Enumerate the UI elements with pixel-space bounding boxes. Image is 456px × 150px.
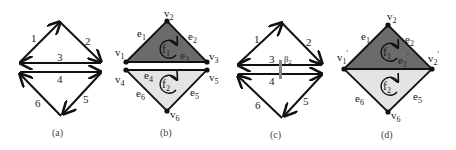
half-edge-6 (20, 74, 61, 116)
vertex-label-v4: v4 (115, 73, 125, 88)
vertex-label-v6: v6 (391, 109, 401, 124)
edge-label-3: 3 (269, 53, 275, 65)
edge-label-4: 4 (269, 75, 275, 87)
beta2-sewing-marker (279, 60, 282, 79)
vertex-label-v1-prime: v1' (337, 49, 349, 66)
caption-c: (c) (270, 129, 281, 141)
caption-d: (d) (381, 129, 393, 141)
vertex-v6 (385, 109, 390, 114)
half-edge-2 (60, 22, 101, 62)
vertex-v1-prime (341, 66, 346, 71)
vertex-v2 (385, 22, 390, 27)
edge-label-5: 5 (83, 93, 89, 105)
vertex-label-v3: v3 (209, 50, 219, 65)
edge-label-1: 1 (254, 33, 260, 45)
panel-a: 1 2 3 4 5 6 (a) (20, 22, 101, 139)
diagram-canvas: 1 2 3 4 5 6 (a) v1 v2 v3 v4 v5 v6 e1 e2 … (0, 0, 456, 150)
half-edge-1 (238, 23, 282, 64)
vertex-label-v1: v1 (115, 46, 125, 61)
panel-c: 1 2 3 4 5 6 β2 (c) (238, 23, 322, 141)
edge-label-6: 6 (255, 99, 261, 111)
beta2-label: β2 (284, 54, 292, 65)
edge-label-e1: e1 (137, 27, 146, 42)
vertex-label-v2-prime: v2' (428, 50, 440, 67)
edge-label-4: 4 (57, 73, 63, 85)
panel-d: v1' v2 v2' v6 e1 e2 e1' e6 e5 f1 f2 (d) (337, 10, 440, 141)
half-edge-6 (238, 76, 282, 118)
caption-b: (b) (160, 127, 172, 139)
caption-a: (a) (52, 127, 63, 139)
half-edge-5 (63, 73, 101, 114)
edge-label-2: 2 (306, 36, 312, 48)
vertex-v2-prime (429, 66, 434, 71)
edge-label-3: 3 (57, 51, 63, 63)
vertex-v4 (123, 67, 128, 72)
vertex-label-v6: v6 (170, 108, 180, 123)
edge-label-5: 5 (303, 95, 309, 107)
edge-label-2: 2 (85, 35, 91, 47)
vertex-v6 (164, 108, 169, 113)
edge-label-e1: e1 (361, 30, 370, 45)
edge-label-e6: e6 (136, 87, 145, 102)
edge-label-e5: e5 (413, 90, 422, 105)
panel-b: v1 v2 v3 v4 v5 v6 e1 e2 e3 e4 e6 e5 f1 f… (115, 7, 219, 139)
edge-label-6: 6 (35, 97, 41, 109)
edge-label-e5: e5 (190, 86, 199, 101)
edge-label-1: 1 (31, 32, 37, 44)
face-f1 (344, 25, 432, 69)
vertex-label-v5: v5 (209, 71, 219, 86)
half-edge-1 (20, 22, 60, 62)
edge-label-e6: e6 (355, 92, 364, 107)
